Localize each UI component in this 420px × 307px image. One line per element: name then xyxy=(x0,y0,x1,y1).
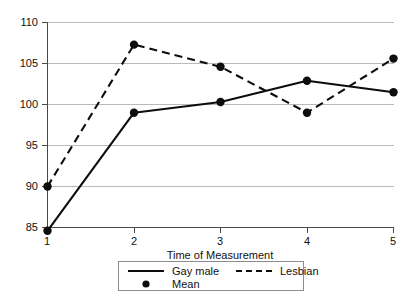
data-point-marker xyxy=(303,77,311,85)
y-tick-label-100: 100 xyxy=(20,98,38,110)
x-tick-label-2: 2 xyxy=(131,235,137,247)
x-tick-label-1: 1 xyxy=(44,235,50,247)
data-point-marker xyxy=(216,98,224,106)
y-tick-label-85: 85 xyxy=(26,221,38,233)
y-tick-label-110: 110 xyxy=(20,16,38,28)
x-axis-title: Time of Measurement xyxy=(167,249,274,261)
legend-label-lesbian: Lesbian xyxy=(280,265,319,277)
chart-figure: 110 105 100 95 90 85 1 2 3 4 5 Time of M… xyxy=(0,0,420,307)
legend-label-gay-male: Gay male xyxy=(172,265,219,277)
y-tick-label-95: 95 xyxy=(26,139,38,151)
data-point-marker xyxy=(216,63,224,71)
chart-legend: Gay male Lesbian Mean xyxy=(119,262,319,291)
data-point-marker xyxy=(43,227,51,235)
data-point-marker xyxy=(389,88,397,96)
legend-label-mean: Mean xyxy=(172,278,200,290)
data-point-marker xyxy=(303,109,311,117)
legend-key-dot-marker-icon xyxy=(142,280,149,287)
x-tick-label-3: 3 xyxy=(217,235,223,247)
data-point-marker xyxy=(130,109,138,117)
data-point-marker xyxy=(130,40,138,48)
data-point-marker xyxy=(389,54,397,62)
y-tick-label-105: 105 xyxy=(20,57,38,69)
y-tick-label-90: 90 xyxy=(26,180,38,192)
line-chart-svg: 110 105 100 95 90 85 1 2 3 4 5 Time of M… xyxy=(0,0,420,307)
data-point-marker xyxy=(43,182,51,190)
x-tick-label-5: 5 xyxy=(390,235,396,247)
x-tick-label-4: 4 xyxy=(304,235,310,247)
